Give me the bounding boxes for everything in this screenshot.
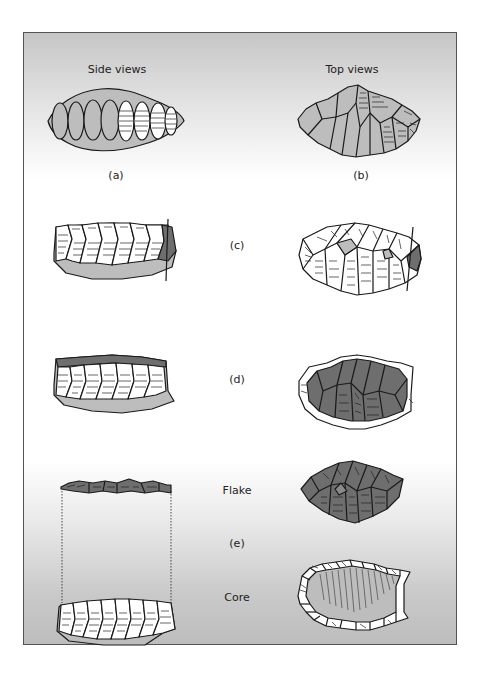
panel-a-side-view — [46, 83, 186, 158]
panel-c-label: (c) — [230, 239, 245, 252]
panel-d-label: (d) — [229, 373, 245, 386]
side-views-header: Side views — [88, 63, 146, 76]
panel-d-top-view — [297, 355, 417, 433]
panel-e-flake-top-view — [299, 461, 409, 526]
panel-a-label: (a) — [108, 169, 123, 182]
top-views-header: Top views — [325, 63, 378, 76]
panel-e-core-top-view-drawing — [296, 556, 414, 636]
panel-e-side-view — [59, 479, 179, 647]
figure-frame: Side views Top views (a) — [23, 32, 457, 645]
panel-e-label: (e) — [229, 537, 244, 550]
panel-c-side-view — [52, 221, 182, 293]
panel-d-side-view — [52, 355, 180, 421]
panel-c-top-view — [297, 221, 425, 301]
core-label: Core — [224, 591, 249, 604]
flake-label: Flake — [223, 484, 252, 497]
panel-b-top-view — [296, 83, 426, 163]
panel-b-label: (b) — [353, 169, 369, 182]
